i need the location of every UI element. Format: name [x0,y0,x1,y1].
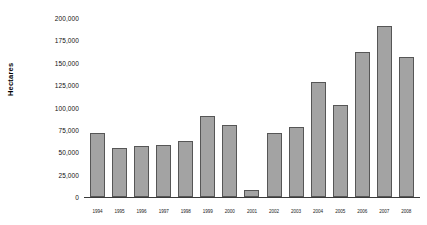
x-label-slot: 1996 [133,199,150,217]
bar[interactable] [222,125,237,197]
bar-slot [111,18,128,197]
y-tick-label: 25,000 [59,171,79,178]
bar[interactable] [399,57,414,197]
x-label-slot: 1997 [155,199,172,217]
x-label-slot: 2004 [310,199,327,217]
bar-slot [376,18,393,197]
x-tick-label: 2006 [357,209,367,214]
bar[interactable] [289,127,304,197]
x-tick-label: 2003 [291,209,301,214]
y-tick-label: 175,000 [55,37,79,44]
x-label-slot: 1994 [89,199,106,217]
x-tick-label: 2004 [313,209,323,214]
bar[interactable] [311,82,326,197]
bar-slot [266,18,283,197]
bar-chart: Hectares 200,000175,000150,000125,000100… [0,0,427,225]
bar-slot [155,18,172,197]
bar-slot [89,18,106,197]
bar-series [84,18,420,197]
x-tick-label: 1998 [181,209,191,214]
bar-slot [354,18,371,197]
x-label-slot: 1999 [199,199,216,217]
x-label-slot: 2001 [243,199,260,217]
bar[interactable] [178,141,193,197]
bar[interactable] [244,190,259,197]
y-tick-label: 75,000 [59,126,79,133]
x-label-slot: 2003 [288,199,305,217]
x-label-slot: 2007 [376,199,393,217]
x-tick-label: 2008 [401,209,411,214]
bar[interactable] [377,26,392,197]
x-tick-label: 2000 [225,209,235,214]
x-axis-line [84,197,420,198]
y-axis-tick-labels: 200,000175,000150,000125,000100,00075,00… [0,0,84,211]
y-tick-label: 50,000 [59,149,79,156]
x-tick-label: 1994 [92,209,102,214]
bar-slot [398,18,415,197]
bar[interactable] [333,105,348,197]
bar[interactable] [355,52,370,197]
bar-slot [177,18,194,197]
bar[interactable] [200,116,215,197]
bar[interactable] [156,145,171,197]
y-tick-label: 200,000 [55,15,79,22]
bar-slot [332,18,349,197]
y-tick-label: 150,000 [55,59,79,66]
y-tick-label: 0 [75,194,79,201]
x-label-slot: 2005 [332,199,349,217]
y-tick-label: 125,000 [55,82,79,89]
x-tick-label: 2001 [247,209,257,214]
y-tick-label: 100,000 [55,104,79,111]
x-tick-label: 2007 [379,209,389,214]
x-tick-label: 1997 [159,209,169,214]
bar-slot [221,18,238,197]
x-label-slot: 2000 [221,199,238,217]
bar[interactable] [267,133,282,197]
x-tick-label: 1999 [203,209,213,214]
bar[interactable] [90,133,105,197]
x-label-slot: 1998 [177,199,194,217]
x-tick-label: 2002 [269,209,279,214]
x-tick-label: 1995 [115,209,125,214]
x-label-slot: 2006 [354,199,371,217]
x-label-slot: 2002 [266,199,283,217]
bar-slot [133,18,150,197]
bar-slot [199,18,216,197]
x-label-slot: 1995 [111,199,128,217]
bar-slot [243,18,260,197]
bar-slot [288,18,305,197]
bar[interactable] [112,148,127,197]
bar-slot [310,18,327,197]
x-tick-label: 1996 [137,209,147,214]
x-label-slot: 2008 [398,199,415,217]
bar[interactable] [134,146,149,197]
x-tick-label: 2005 [335,209,345,214]
x-axis-tick-labels: 1994199519961997199819992000200120022003… [84,199,420,217]
